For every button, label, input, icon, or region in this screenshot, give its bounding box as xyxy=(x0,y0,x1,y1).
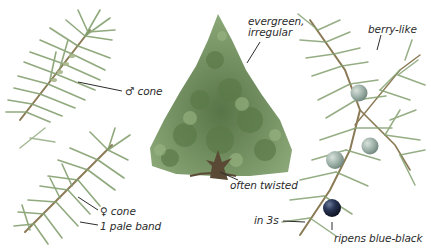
male-cone-branch xyxy=(6,10,115,122)
unripe-berry xyxy=(326,151,344,169)
habit-label: evergreen, irregular xyxy=(248,16,304,38)
juniper-illustration-plate: ♂ cone ♀ cone 1 pale band evergreen, irr… xyxy=(0,0,431,251)
fruit-label: berry-like xyxy=(368,24,417,35)
trunk-label: often twisted xyxy=(230,180,298,191)
juniper-tree xyxy=(150,14,292,180)
ripe-fruit-label: ripens blue-black xyxy=(334,233,422,244)
unripe-berry xyxy=(351,85,368,102)
ripe-berry xyxy=(323,199,341,217)
illustration-artwork xyxy=(0,0,431,251)
pale-band-label: 1 pale band xyxy=(100,221,161,232)
female-cone-label: ♀ cone xyxy=(100,206,136,217)
berry-branch xyxy=(282,14,425,236)
unripe-berry xyxy=(362,138,379,155)
whorl-label: in 3s xyxy=(254,215,279,226)
male-cone-label: ♂ cone xyxy=(125,86,162,97)
